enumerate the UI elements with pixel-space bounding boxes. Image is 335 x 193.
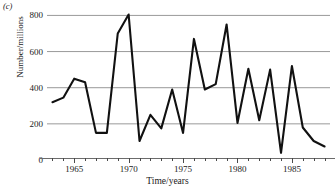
- series-line: [52, 15, 324, 153]
- y-axis-tick-labels: 0200400600800: [10, 10, 43, 160]
- x-tick-label: 1970: [120, 164, 138, 174]
- y-tick-label: 600: [13, 47, 43, 57]
- x-tick-label: 1980: [228, 164, 246, 174]
- x-axis-label: Time/years: [0, 176, 335, 186]
- x-tick-label: 1965: [65, 164, 83, 174]
- x-tick-label: 1985: [283, 164, 301, 174]
- x-axis-tick-labels: 19651970197519801985: [0, 158, 335, 174]
- x-tick-label: 1975: [174, 164, 192, 174]
- data-line-series: [47, 10, 330, 160]
- y-tick-label: 800: [13, 10, 43, 20]
- y-tick-label: 200: [13, 119, 43, 129]
- y-tick-label: 400: [13, 83, 43, 93]
- plot-area: [47, 10, 330, 160]
